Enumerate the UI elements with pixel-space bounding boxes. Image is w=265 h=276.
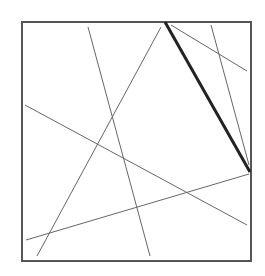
line-e xyxy=(171,25,247,71)
line-a xyxy=(88,27,150,256)
line-f xyxy=(211,25,249,165)
diagram-canvas xyxy=(0,0,265,276)
square-frame xyxy=(22,22,251,261)
line-group xyxy=(25,22,250,256)
line-thick xyxy=(165,22,250,172)
line-b xyxy=(37,27,161,256)
line-d xyxy=(26,174,249,240)
